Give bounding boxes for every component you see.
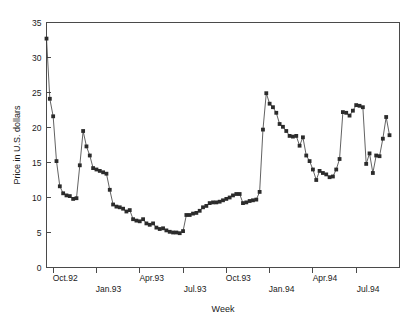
data-point-marker [191, 212, 195, 216]
y-tick-label: 30 [32, 53, 42, 63]
data-point-marker [101, 170, 105, 174]
data-point-marker [214, 201, 218, 205]
data-point-marker [348, 114, 352, 118]
data-point-marker [81, 129, 85, 133]
data-point-marker [121, 207, 125, 211]
data-point-marker [311, 168, 315, 172]
data-point-marker [241, 201, 245, 205]
data-point-marker [108, 188, 112, 192]
data-point-marker [268, 102, 272, 106]
data-point-marker [78, 163, 82, 167]
data-point-marker [244, 201, 248, 205]
price-line-chart: 05101520253035 Oct.92Jan.93Apr.93Jul.93O… [0, 0, 415, 322]
data-point-marker [75, 196, 79, 200]
x-tick-label: Jan.94 [269, 284, 295, 294]
data-point-marker [174, 231, 178, 235]
data-point-marker [298, 144, 302, 148]
data-point-marker [194, 211, 198, 215]
data-point-marker [321, 171, 325, 175]
price-series-markers [45, 37, 392, 235]
data-point-marker [135, 219, 139, 223]
data-point-marker [334, 168, 338, 172]
data-point-marker [58, 184, 62, 188]
data-point-marker [328, 175, 332, 179]
x-tick-label: Jul.94 [357, 284, 380, 294]
data-point-marker [48, 97, 52, 101]
data-point-marker [218, 200, 222, 204]
data-point-marker [178, 231, 182, 235]
data-point-marker [308, 159, 312, 163]
data-point-marker [201, 205, 205, 209]
chart-container: 05101520253035 Oct.92Jan.93Apr.93Jul.93O… [0, 0, 415, 322]
data-point-marker [65, 194, 69, 198]
data-point-marker [314, 178, 318, 182]
data-point-marker [374, 154, 378, 158]
data-point-marker [204, 204, 208, 208]
data-point-marker [164, 229, 168, 233]
data-point-marker [105, 172, 109, 176]
data-point-marker [288, 134, 292, 138]
data-point-marker [45, 37, 49, 41]
data-point-marker [118, 205, 122, 209]
data-point-marker [111, 203, 115, 207]
data-point-marker [281, 125, 285, 129]
data-point-marker [228, 196, 232, 200]
data-point-marker [98, 169, 102, 173]
data-point-marker [88, 154, 92, 158]
data-point-marker [148, 223, 152, 227]
data-point-marker [211, 201, 215, 205]
data-point-marker [351, 109, 355, 113]
x-tick-label: Oct.92 [53, 273, 78, 283]
y-tick-label: 25 [32, 88, 42, 98]
data-point-marker [168, 230, 172, 234]
data-point-marker [301, 135, 305, 139]
data-point-marker [261, 128, 265, 132]
data-point-marker [254, 198, 258, 202]
y-axis-title: Price in U.S. dollars [12, 105, 22, 185]
y-tick-label: 15 [32, 158, 42, 168]
data-point-marker [331, 175, 335, 179]
data-point-marker [344, 111, 348, 115]
data-point-marker [181, 229, 185, 233]
data-point-marker [378, 154, 382, 158]
y-tick-label: 10 [32, 193, 42, 203]
data-point-marker [141, 217, 145, 221]
data-point-marker [371, 171, 375, 175]
x-tick-label: Jan.93 [96, 284, 122, 294]
data-point-marker [71, 197, 75, 201]
plot-frame [47, 23, 400, 268]
data-point-marker [248, 199, 252, 203]
data-point-marker [231, 194, 235, 198]
data-point-marker [381, 137, 385, 141]
data-point-marker [155, 226, 159, 230]
data-point-marker [264, 91, 268, 95]
data-point-marker [145, 222, 149, 226]
data-point-marker [368, 152, 372, 156]
data-point-marker [388, 133, 392, 137]
data-point-marker [234, 192, 238, 196]
data-point-marker [238, 192, 242, 196]
data-point-marker [294, 134, 298, 138]
data-point-marker [291, 135, 295, 139]
data-point-marker [384, 115, 388, 119]
data-point-marker [171, 231, 175, 235]
x-tick-label: Apr.93 [139, 273, 164, 283]
data-point-marker [271, 105, 275, 109]
x-axis: Oct.92Jan.93Apr.93Jul.93Oct.93Jan.94Apr.… [53, 268, 380, 294]
data-point-marker [158, 227, 162, 231]
data-point-marker [115, 205, 119, 209]
data-point-marker [151, 222, 155, 226]
data-point-marker [361, 105, 365, 109]
data-point-marker [221, 198, 225, 202]
data-point-marker [198, 209, 202, 213]
y-tick-label: 0 [37, 263, 42, 273]
data-point-marker [91, 166, 95, 170]
data-point-marker [138, 219, 142, 223]
y-tick-label: 5 [37, 228, 42, 238]
data-point-marker [354, 103, 358, 107]
y-tick-label: 20 [32, 123, 42, 133]
data-point-marker [68, 194, 72, 198]
data-point-marker [304, 154, 308, 158]
data-point-marker [184, 213, 188, 217]
x-axis-title: Week [212, 304, 235, 314]
